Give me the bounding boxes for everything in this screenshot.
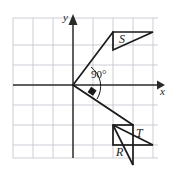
right-angle-square-icon [88, 87, 97, 96]
triangle-S-label: S [119, 33, 125, 45]
triangle-R-label: R [116, 146, 123, 158]
x-axis-label: x [160, 86, 165, 97]
angle-measure-label: 90° [91, 69, 106, 80]
triangle-T-label: T [136, 127, 143, 139]
geometry-figure: x y 90° S T R [0, 0, 175, 170]
figure-canvas [0, 0, 175, 170]
y-axis-arrowhead [69, 14, 78, 25]
TR-square [113, 125, 133, 145]
y-axis-label: y [63, 12, 68, 23]
